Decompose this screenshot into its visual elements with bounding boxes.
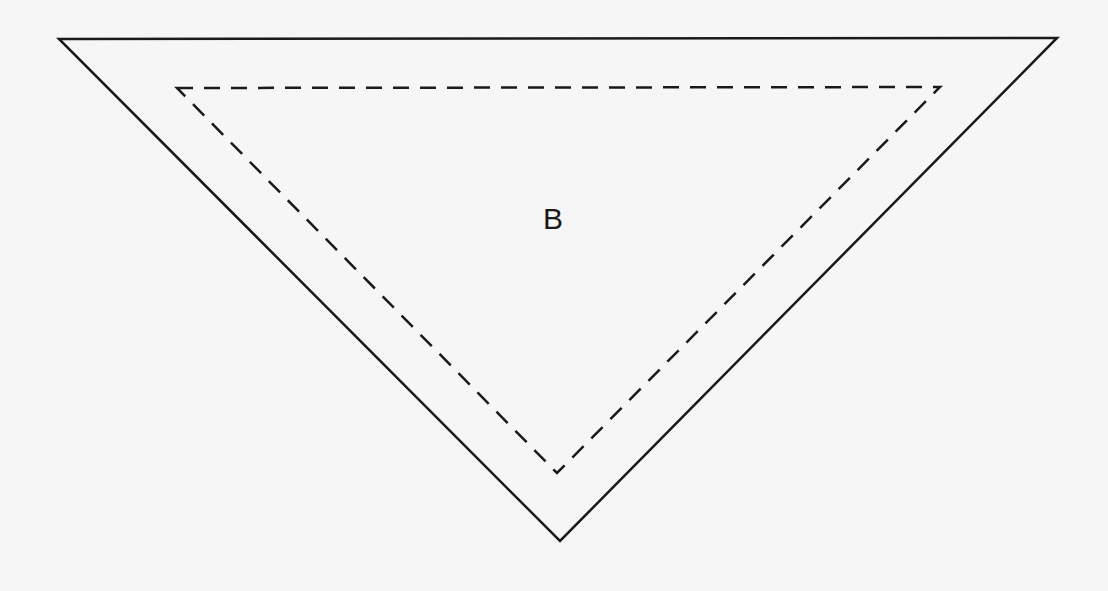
region-label-b: B — [543, 202, 563, 235]
diagram-canvas: B — [0, 0, 1108, 591]
inner-dashed-triangle — [177, 87, 940, 473]
outer-triangle — [59, 38, 1057, 541]
